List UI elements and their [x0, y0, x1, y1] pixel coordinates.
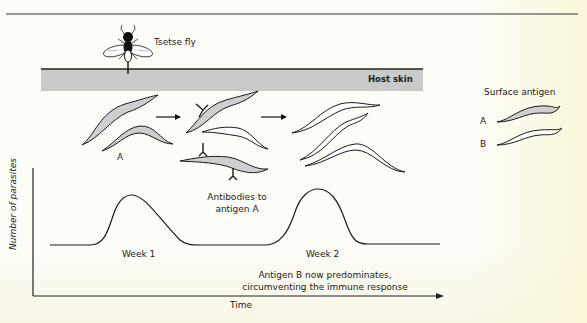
week2-label: Week 2 [306, 249, 339, 259]
legend-shape-a [497, 106, 560, 122]
legend-a-label: A [480, 116, 486, 126]
legend-shape-b [497, 128, 562, 145]
parasites-antigen-b-group [292, 103, 405, 172]
antibodies-caption: Antibodies to antigen A [197, 191, 277, 215]
x-axis-arrowhead [436, 293, 444, 299]
antibodies-caption-line2: antigen A [197, 203, 277, 215]
week1-label: Week 1 [122, 249, 155, 259]
arrow-stage-2-to-3 [261, 114, 287, 120]
host-skin-band [41, 69, 423, 91]
outcome-caption: Antigen B now predominates, circumventin… [240, 269, 410, 293]
tsetse-fly-label: Tsetse fly [154, 37, 196, 47]
x-axis-label: Time [230, 300, 252, 310]
legend-b-label: B [480, 139, 486, 149]
parasites-with-antibodies [180, 91, 268, 180]
outcome-caption-line2: circumventing the immune response [240, 281, 410, 293]
parasites-antigen-a-group [82, 95, 173, 151]
antibody-icon [199, 143, 207, 156]
host-skin-label: Host skin [368, 74, 413, 84]
group-a-label: A [117, 152, 123, 162]
outcome-caption-line1: Antigen B now predominates, [240, 269, 410, 281]
arrow-stage-1-to-2 [156, 114, 181, 120]
y-axis-label: Number of parasites [8, 158, 18, 250]
antibodies-caption-line1: Antibodies to [197, 191, 277, 203]
surface-antigen-label: Surface antigen [484, 87, 555, 97]
tsetse-fly-icon [102, 25, 154, 74]
